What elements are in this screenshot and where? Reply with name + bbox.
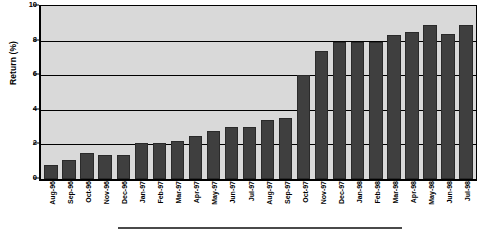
- x-axis-tick-label: Aug-97: [266, 181, 273, 205]
- bar-slot: [241, 6, 259, 179]
- x-axis-tick: Nov-96: [94, 180, 112, 216]
- footer-divider: [118, 227, 402, 229]
- bar: [80, 153, 93, 179]
- bar: [405, 32, 418, 179]
- bar: [279, 118, 292, 179]
- x-axis-tick: May-98: [419, 180, 437, 216]
- bar: [459, 25, 472, 179]
- x-axis-tick-label: Feb-98: [374, 181, 381, 204]
- bar-slot: [403, 6, 421, 179]
- bar: [171, 141, 184, 179]
- x-axis-tick: May-97: [202, 180, 220, 216]
- x-axis-tick: Oct-97: [293, 180, 311, 216]
- x-axis-tick: Apr-97: [184, 180, 202, 216]
- bar-slot: [186, 6, 204, 179]
- bar-slot: [385, 6, 403, 179]
- bar: [117, 155, 130, 179]
- bar-slot: [132, 6, 150, 179]
- x-axis-tick: Sep-97: [275, 180, 293, 216]
- x-axis-tick-label: Jun-98: [446, 181, 453, 204]
- bar-slot: [114, 6, 132, 179]
- bar: [225, 127, 238, 179]
- x-axis-tick-label: Dec-96: [121, 181, 128, 204]
- bar-slot: [295, 6, 313, 179]
- x-axis-tick: Feb-97: [148, 180, 166, 216]
- bar-series: [41, 6, 476, 179]
- x-axis-tick-label: Dec-97: [338, 181, 345, 204]
- bar: [333, 42, 346, 179]
- x-axis-tick: Dec-96: [112, 180, 130, 216]
- x-axis-tick-label: Jul-98: [464, 181, 471, 201]
- x-axis-tick: Mar-98: [383, 180, 401, 216]
- x-axis-tick-label: Apr-97: [193, 181, 200, 203]
- bar: [44, 165, 57, 179]
- bar: [189, 136, 202, 179]
- bar-slot: [259, 6, 277, 179]
- x-axis-tick-label: Aug-96: [49, 181, 56, 205]
- bar: [62, 160, 75, 179]
- bar-slot: [168, 6, 186, 179]
- bar-slot: [204, 6, 222, 179]
- x-axis-tick-label: May-98: [428, 181, 435, 205]
- x-axis-tick: Jan-98: [347, 180, 365, 216]
- x-axis-tick-label: Nov-96: [103, 181, 110, 204]
- x-axis-tick-label: Oct-96: [85, 181, 92, 203]
- x-axis-tick-label: Jul-97: [248, 181, 255, 201]
- x-axis-tick: Jul-98: [455, 180, 473, 216]
- x-axis-tick-label: Oct-97: [302, 181, 309, 203]
- x-axis-tick: Dec-97: [329, 180, 347, 216]
- bar: [243, 127, 256, 179]
- x-axis-tick: Mar-97: [166, 180, 184, 216]
- x-axis-tick-label: Apr-98: [410, 181, 417, 203]
- x-axis-tick-label: Sep-97: [284, 181, 291, 204]
- bar: [135, 143, 148, 179]
- x-axis-tick: Feb-98: [365, 180, 383, 216]
- x-axis-tick: Apr-98: [401, 180, 419, 216]
- bar: [297, 75, 310, 179]
- bar-slot: [439, 6, 457, 179]
- bar-slot: [150, 6, 168, 179]
- x-axis-tick: Nov-97: [311, 180, 329, 216]
- x-axis-tick-label: Jun-97: [229, 181, 236, 204]
- bar-slot: [78, 6, 96, 179]
- bar: [423, 25, 436, 179]
- bar-slot: [277, 6, 295, 179]
- bar-slot: [457, 6, 475, 179]
- x-axis-tick-label: Jan-97: [139, 181, 146, 203]
- bar: [315, 51, 328, 179]
- bar-slot: [222, 6, 240, 179]
- x-axis-tick: Jun-98: [437, 180, 455, 216]
- x-axis-tick: Aug-96: [40, 180, 58, 216]
- bar-slot: [349, 6, 367, 179]
- bar: [261, 120, 274, 179]
- y-axis-ticks: 0246810: [0, 0, 39, 183]
- bar: [207, 131, 220, 179]
- bar-slot: [313, 6, 331, 179]
- x-axis-tick-label: Mar-98: [392, 181, 399, 204]
- bar: [387, 35, 400, 179]
- x-axis-tick: Jun-97: [220, 180, 238, 216]
- x-axis-tick: Jan-97: [130, 180, 148, 216]
- x-axis-tick-label: Mar-97: [175, 181, 182, 204]
- bar: [369, 42, 382, 179]
- x-axis-tick-label: Sep-96: [67, 181, 74, 204]
- x-axis-tick: Oct-96: [76, 180, 94, 216]
- bar: [351, 42, 364, 179]
- bar: [441, 34, 454, 179]
- bar: [153, 143, 166, 179]
- plot-area: [39, 5, 477, 181]
- bar-slot: [96, 6, 114, 179]
- x-axis-tick-label: May-97: [211, 181, 218, 205]
- x-axis-tick: Jul-97: [239, 180, 257, 216]
- x-axis-tick-label: Jan-98: [356, 181, 363, 203]
- bar: [98, 155, 111, 179]
- bar-slot: [367, 6, 385, 179]
- x-axis-tick: Sep-96: [58, 180, 76, 216]
- bar-slot: [331, 6, 349, 179]
- x-axis-tick-label: Nov-97: [320, 181, 327, 204]
- bar-slot: [42, 6, 60, 179]
- x-axis-tick-label: Feb-97: [157, 181, 164, 204]
- x-axis-labels: Aug-96Sep-96Oct-96Nov-96Dec-96Jan-97Feb-…: [39, 180, 474, 216]
- x-axis-tick: Aug-97: [257, 180, 275, 216]
